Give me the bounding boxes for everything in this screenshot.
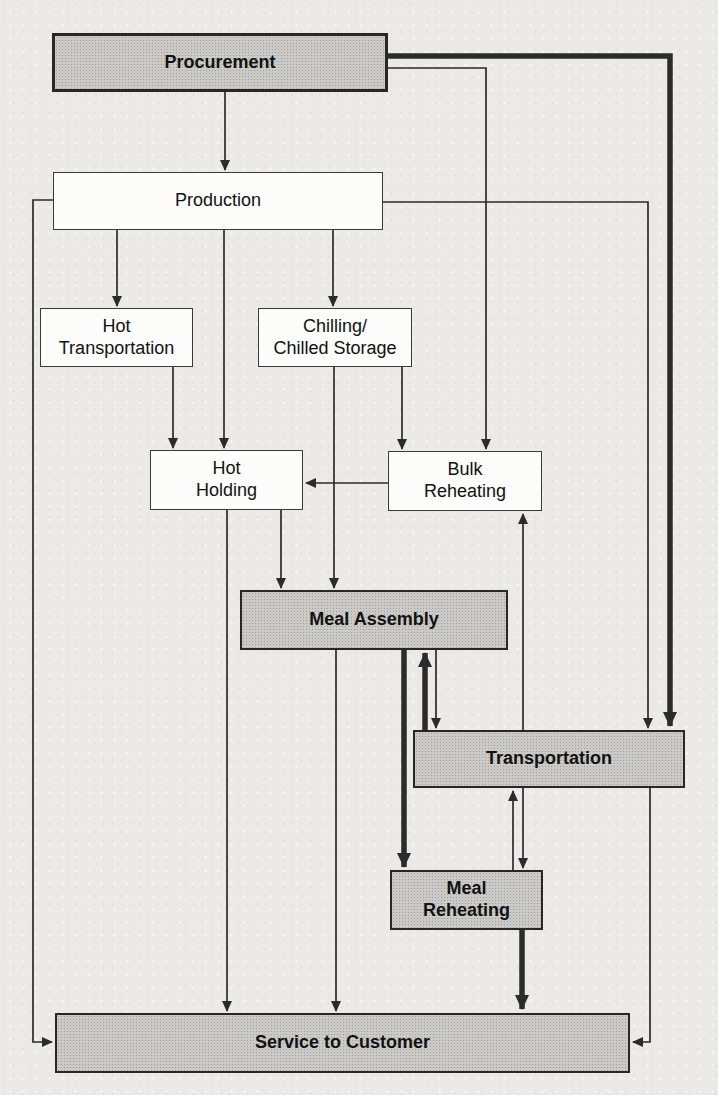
node-label: Meal Assembly	[305, 609, 442, 631]
node-label: Service to Customer	[251, 1032, 434, 1054]
node-label: Hot Transportation	[55, 316, 178, 360]
node-production: Production	[53, 172, 383, 230]
node-label: Procurement	[160, 52, 279, 74]
node-meal-assembly: Meal Assembly	[240, 590, 508, 650]
node-service: Service to Customer	[55, 1013, 630, 1073]
node-hot-transportation: Hot Transportation	[40, 308, 193, 367]
flow-diagram: ProcurementProductionHot TransportationC…	[0, 0, 718, 1095]
node-meal-reheating: Meal Reheating	[390, 870, 543, 930]
node-label: Production	[171, 190, 265, 212]
node-transportation: Transportation	[413, 730, 685, 788]
node-label: Chilling/ Chilled Storage	[269, 316, 400, 360]
nodes-layer: ProcurementProductionHot TransportationC…	[0, 0, 718, 1095]
node-hot-holding: Hot Holding	[150, 450, 303, 510]
node-chilling: Chilling/ Chilled Storage	[258, 308, 412, 367]
node-bulk-reheating: Bulk Reheating	[388, 451, 542, 511]
node-label: Bulk Reheating	[420, 459, 510, 503]
node-procurement: Procurement	[52, 33, 388, 92]
node-label: Hot Holding	[192, 458, 261, 502]
node-label: Meal Reheating	[419, 878, 514, 922]
node-label: Transportation	[482, 748, 616, 770]
